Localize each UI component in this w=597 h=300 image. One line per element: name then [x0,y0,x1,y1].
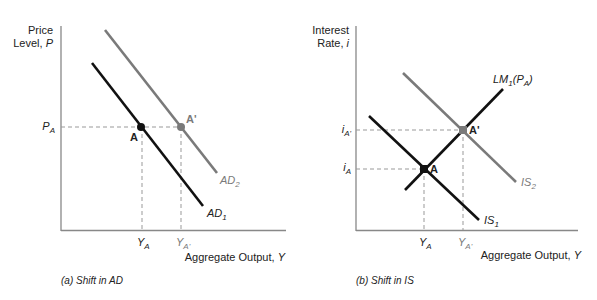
ad2-label: AD2 [219,174,240,189]
panel-b-shift-in-is: Interest Rate, i A A' iA' iA YA YA' LM1(… [312,24,581,286]
is1-label: IS1 [484,214,499,229]
point-a-prime [459,126,467,134]
is2-label: IS2 [521,176,536,191]
panel-b-caption: (b) Shift in IS [356,275,414,286]
panel-a-x-axis-label: Aggregate Output, Y [185,251,286,263]
panel-a-y-axis-label-line1: Price [28,24,53,36]
point-a-prime-label: A' [186,113,197,125]
point-a-label: A [430,163,438,175]
point-a-label: A [130,131,138,143]
panel-a-caption: (a) Shift in AD [61,275,123,286]
panel-b-ia-prime-tick: iA' [342,123,352,138]
panel-b-y-axis-label-line2: Rate, i [317,37,349,49]
point-a [420,165,428,173]
panel-a-pa-tick: PA [42,120,55,135]
panel-a-y-axis-label-line2: Level, P [13,37,53,49]
point-a-prime [177,123,185,131]
ad1-label: AD1 [206,207,227,222]
panel-b-x-axis-label: Aggregate Output, Y [481,249,582,261]
is-lm-ad-diagram: Price Level, P A A' PA YA YA' AD2 AD1 Ag… [0,0,597,300]
lm1-curve [405,89,503,190]
panel-b-y-axis-label-line1: Interest [312,24,349,36]
panel-a-ya-prime-tick: YA' [176,236,191,251]
panel-a-shift-in-ad: Price Level, P A A' PA YA YA' AD2 AD1 Ag… [13,24,286,286]
panel-b-ya-prime-tick: YA' [458,236,473,251]
panel-b-ya-tick: YA [419,236,432,251]
panel-b-ia-tick: iA [343,161,351,176]
point-a [137,123,145,131]
lm1-label: LM1(PA) [493,73,533,88]
point-a-prime-label: A' [469,124,480,136]
panel-a-ya-tick: YA [137,236,150,251]
